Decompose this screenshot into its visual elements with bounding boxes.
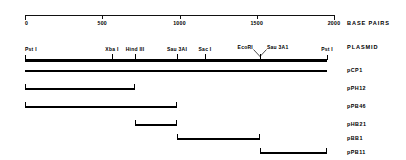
scale-tick-label-1000: 1000 xyxy=(173,20,186,26)
restriction-site-tick-xba-i-1 xyxy=(112,54,113,60)
fragment-bar-pph12 xyxy=(25,88,135,90)
restriction-site-label-hind-iii-2: Hind III xyxy=(126,46,145,52)
scale-tick-label-2000: 2000 xyxy=(328,20,341,26)
map-title-plasmid: PLASMID xyxy=(347,44,378,51)
fragment-cap-right-pbb1 xyxy=(259,134,260,139)
restriction-site-label-sac-i-4: Sac I xyxy=(199,46,212,52)
fragment-bar-phb21 xyxy=(135,124,177,126)
plasmid-backbone-bar xyxy=(25,59,327,62)
fragment-cap-left-phb21 xyxy=(135,120,136,125)
restriction-site-label-pst-i-0: Pst I xyxy=(25,46,37,52)
restriction-map-figure: 0500100015002000 BASE PAIRS Pst IXba IHi… xyxy=(0,0,406,160)
fragment-label-pph12: pPH12 xyxy=(347,85,366,92)
fragment-cap-left-pbb1 xyxy=(177,134,178,139)
fragment-label-ppb46: pPB46 xyxy=(347,103,366,110)
fragment-cap-right-pph12 xyxy=(134,84,135,89)
fragment-bar-ppb46 xyxy=(25,106,177,108)
fragment-bar-ppb11 xyxy=(260,152,327,154)
fragment-bar-pcp1 xyxy=(25,70,327,72)
axis-title-base-pairs: BASE PAIRS xyxy=(347,20,390,27)
fragment-cap-right-ppb46 xyxy=(176,102,177,107)
restriction-site-tick-hind-iii-2 xyxy=(135,54,136,60)
restriction-site-label-xba-i-1: Xba I xyxy=(105,46,118,52)
scale-tick-1500 xyxy=(257,15,258,19)
fragment-cap-left-ppb11 xyxy=(260,148,261,153)
fragment-cap-left-ppb46 xyxy=(25,102,26,107)
fragment-cap-right-ppb11 xyxy=(326,148,327,153)
scale-tick-label-0: 0 xyxy=(25,20,28,26)
fragment-cap-left-pph12 xyxy=(25,84,26,89)
restriction-site-label-pst-i-7: Pst I xyxy=(321,46,333,52)
shared-site-pointer-icon xyxy=(251,49,269,59)
plasmid-backbone-cap-left xyxy=(25,55,26,60)
scale-tick-label-1500: 1500 xyxy=(250,20,263,26)
restriction-site-tick-sac-i-4 xyxy=(205,54,206,60)
scale-tick-500 xyxy=(102,15,103,19)
restriction-site-tick-sau-3ai-3 xyxy=(177,54,178,60)
fragment-cap-right-phb21 xyxy=(176,120,177,125)
restriction-site-label-sau-3ai-3: Sau 3AI xyxy=(167,46,187,52)
fragment-label-phb21: pHB21 xyxy=(347,121,366,128)
fragment-label-pbb1: pBB1 xyxy=(347,135,363,142)
fragment-bar-pbb1 xyxy=(177,138,260,140)
fragment-label-ppb11: pPB11 xyxy=(347,149,366,156)
fragment-label-pcp1: pCP1 xyxy=(347,67,363,74)
plasmid-backbone-cap-right xyxy=(327,55,328,60)
scale-tick-1000 xyxy=(180,15,181,19)
scale-tick-label-500: 500 xyxy=(97,20,107,26)
restriction-site-label-sau-3a1-6: Sau 3A1 xyxy=(267,44,288,50)
